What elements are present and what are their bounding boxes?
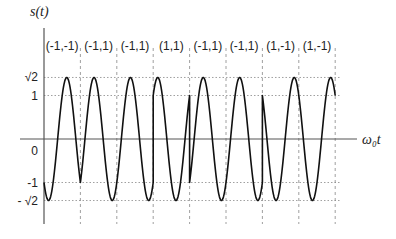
symbol-label: (-1,-1) [46, 39, 79, 53]
gridlines [44, 48, 341, 224]
symbol-label: (-1,1) [121, 39, 150, 53]
symbol-label: (1,1) [159, 39, 184, 53]
y-tick-label: 1 [31, 89, 38, 103]
symbol-label: (-1,1) [84, 39, 113, 53]
symbol-label: (1,-1) [266, 39, 295, 53]
y-tick-label: - √2 [17, 194, 38, 208]
y-tick-label: 0 [31, 144, 38, 158]
axes [20, 28, 357, 224]
symbol-label: (1,-1) [303, 39, 332, 53]
symbol-label: (-1,1) [193, 39, 222, 53]
y-axis-label: s(t) [30, 4, 49, 20]
qpsk-waveform-diagram: √210-1- √2 (-1,-1)(-1,1)(-1,1)(1,1)(-1,1… [0, 0, 396, 239]
symbol-label: (-1,1) [230, 39, 259, 53]
y-tick-label: √2 [25, 70, 39, 84]
x-axis-label: ω₀t [362, 132, 382, 147]
symbol-labels: (-1,-1)(-1,1)(-1,1)(1,1)(-1,1)(-1,1)(1,-… [46, 39, 331, 53]
y-tick-label: -1 [27, 176, 38, 190]
